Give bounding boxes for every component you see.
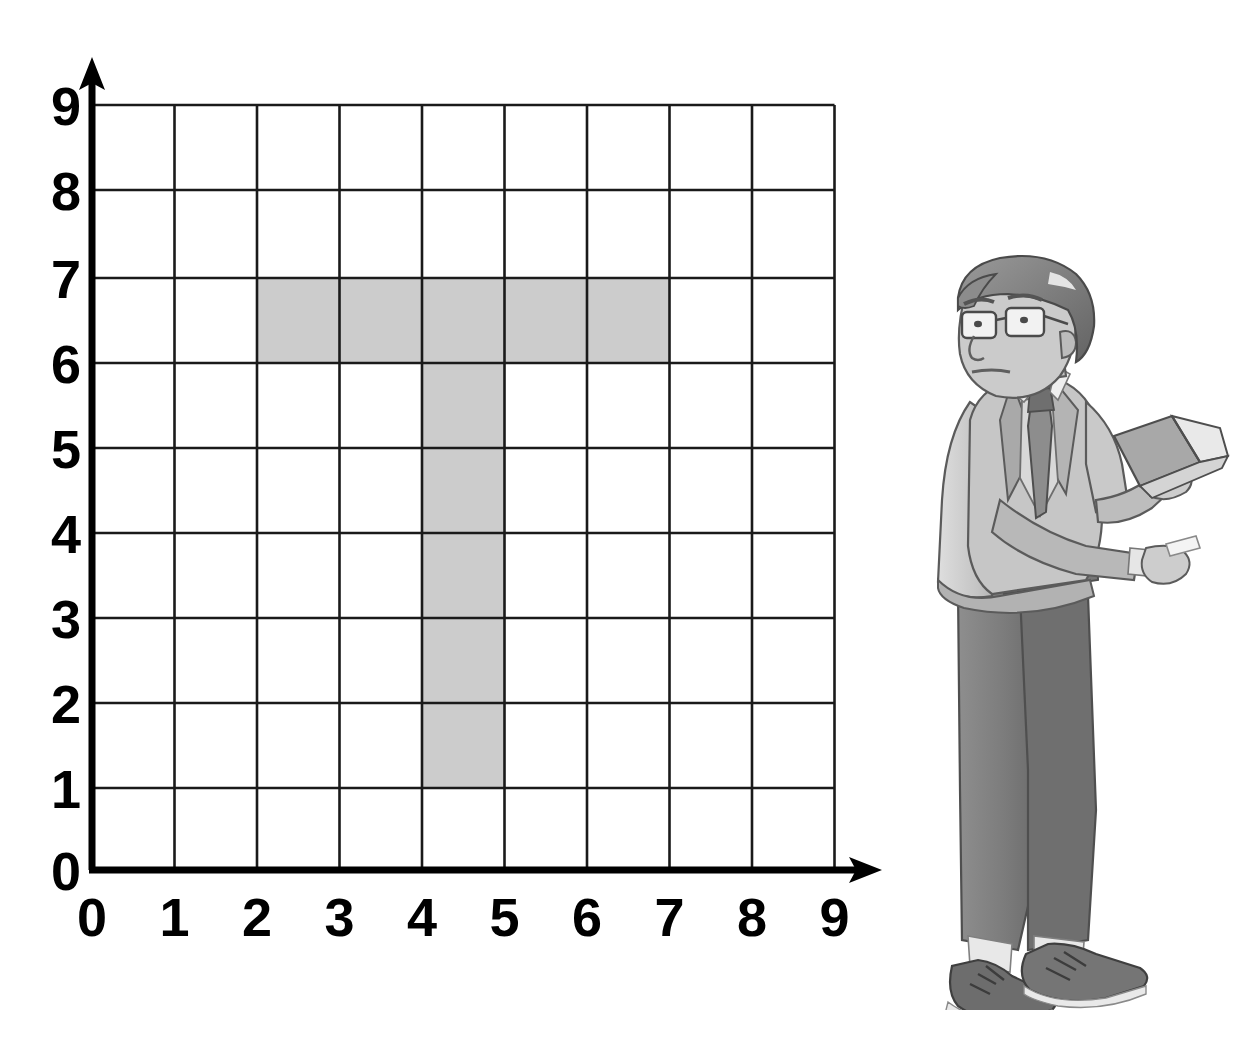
eye-right: [1020, 317, 1028, 323]
teacher-figure-svg: [900, 250, 1230, 1010]
x-tick-label-4: 4: [407, 887, 437, 947]
x-tick-label-9: 9: [819, 887, 849, 947]
page-root: 9 8 7 6 5 4 3 2 1 0 0 1 2 3 4 5 6 7: [0, 0, 1251, 1041]
coordinate-grid-svg: 9 8 7 6 5 4 3 2 1 0 0 1 2 3 4 5 6 7: [0, 0, 900, 1041]
y-tick-label-9: 9: [51, 76, 81, 136]
x-tick-label-2: 2: [242, 887, 272, 947]
y-tick-label-3: 3: [51, 589, 81, 649]
ear: [1060, 331, 1076, 358]
eye-left: [974, 321, 982, 327]
jacket: [938, 366, 1102, 613]
x-tick-label-8: 8: [737, 887, 767, 947]
chalk-stick: [1166, 536, 1200, 556]
x-tick-label-6: 6: [572, 887, 602, 947]
x-tick-label-1: 1: [159, 887, 189, 947]
y-axis-tick-labels: 9 8 7 6 5 4 3 2 1 0: [51, 76, 81, 901]
x-tick-label-3: 3: [324, 887, 354, 947]
teacher-illustration: [900, 250, 1230, 1010]
y-tick-label-4: 4: [51, 504, 81, 564]
x-tick-label-0: 0: [77, 887, 107, 947]
x-tick-label-5: 5: [489, 887, 519, 947]
y-tick-label-2: 2: [51, 674, 81, 734]
x-tick-label-7: 7: [654, 887, 684, 947]
x-axis-tick-labels: 0 1 2 3 4 5 6 7 8 9: [77, 887, 850, 947]
y-tick-label-7: 7: [51, 249, 81, 309]
coordinate-grid-figure: 9 8 7 6 5 4 3 2 1 0 0 1 2 3 4 5 6 7: [0, 0, 900, 1041]
head: [958, 256, 1094, 398]
y-tick-label-1: 1: [51, 759, 81, 819]
y-tick-label-8: 8: [51, 161, 81, 221]
open-book: [1114, 416, 1228, 498]
y-tick-label-6: 6: [51, 334, 81, 394]
y-tick-label-5: 5: [51, 419, 81, 479]
